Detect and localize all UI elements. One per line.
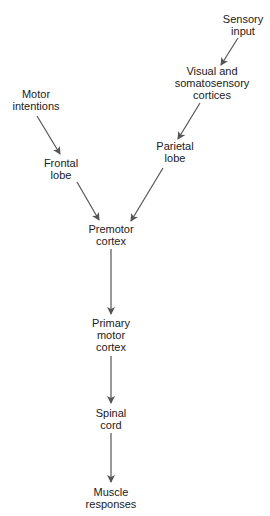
node-muscle-responses: Muscle responses bbox=[86, 486, 137, 510]
node-label-line: Spinal bbox=[96, 407, 127, 419]
node-label-line: motor bbox=[92, 329, 130, 341]
node-motor-intentions: Motor intentions bbox=[12, 88, 59, 112]
node-label-line: Frontal bbox=[44, 157, 78, 169]
arrow-sensory-to-visual bbox=[221, 38, 238, 65]
node-label-line: cortex bbox=[88, 235, 133, 247]
node-label-line: Premotor bbox=[88, 223, 133, 235]
node-label-line: cord bbox=[96, 419, 127, 431]
node-label-line: Parietal bbox=[156, 140, 193, 152]
node-label-line: Primary bbox=[92, 317, 130, 329]
node-label-line: Visual and bbox=[175, 65, 250, 77]
node-parietal-lobe: Parietal lobe bbox=[156, 140, 193, 164]
motor-pathway-diagram: Sensory input Visual and somatosensory c… bbox=[0, 0, 270, 516]
node-label-line: lobe bbox=[44, 169, 78, 181]
node-sensory-input: Sensory input bbox=[223, 13, 263, 37]
node-label-line: cortices bbox=[175, 89, 250, 101]
arrow-frontal-to-premotor bbox=[77, 182, 99, 220]
arrow-parietal-to-premotor bbox=[131, 168, 163, 221]
node-label-line: Motor bbox=[12, 88, 59, 100]
arrow-visual-to-parietal bbox=[178, 103, 200, 139]
node-spinal-cord: Spinal cord bbox=[96, 407, 127, 431]
node-label-line: input bbox=[223, 25, 263, 37]
node-label-line: cortex bbox=[92, 341, 130, 353]
node-label-line: Muscle bbox=[86, 486, 137, 498]
node-label-line: somatosensory bbox=[175, 77, 250, 89]
node-visual-somatosensory-cortices: Visual and somatosensory cortices bbox=[175, 65, 250, 101]
arrow-motor-intentions-to-frontal bbox=[37, 116, 60, 154]
node-premotor-cortex: Premotor cortex bbox=[88, 223, 133, 247]
node-label-line: Sensory bbox=[223, 13, 263, 25]
node-label-line: intentions bbox=[12, 100, 59, 112]
node-label-line: responses bbox=[86, 498, 137, 510]
node-frontal-lobe: Frontal lobe bbox=[44, 157, 78, 181]
node-primary-motor-cortex: Primary motor cortex bbox=[92, 317, 130, 353]
node-label-line: lobe bbox=[156, 152, 193, 164]
